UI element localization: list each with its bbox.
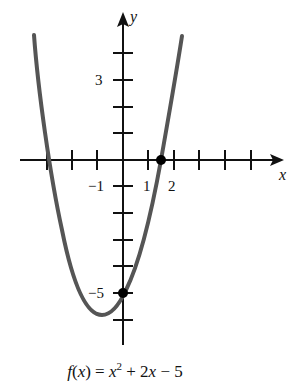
y-tick-label-neg5: −5	[88, 285, 104, 301]
x-intercept-point	[156, 155, 166, 165]
graph: y x 3 −1 −5 1 2	[0, 0, 305, 384]
x-axis-label: x	[278, 166, 286, 183]
y-intercept-point	[118, 288, 128, 298]
function-caption: f(x) = x2 + 2x − 5	[0, 360, 250, 382]
x-tick-label-1: 1	[143, 178, 151, 194]
parabola-curve	[34, 35, 182, 315]
x-tick-label-2: 2	[168, 178, 176, 194]
y-axis-label: y	[128, 8, 138, 26]
y-tick-label-3: 3	[95, 72, 103, 88]
y-tick-label-neg1: −1	[88, 178, 104, 194]
